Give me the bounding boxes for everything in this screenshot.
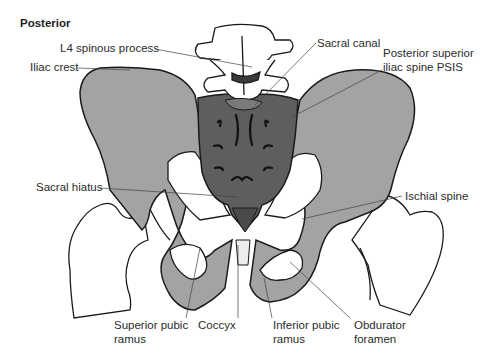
label-psis: Posterior superior iliac spine PSIS xyxy=(383,47,474,74)
label-l4-spinous-process: L4 spinous process xyxy=(60,42,159,56)
label-sacral-hiatus: Sacral hiatus xyxy=(36,181,102,195)
label-inferior-pubic-ramus: Inferior pubic ramus xyxy=(273,319,339,346)
label-obturator-foramen: Obdurator foramen xyxy=(354,319,406,346)
label-iliac-crest: Iliac crest xyxy=(30,61,79,75)
lumbar-vertebrae xyxy=(195,24,293,100)
label-sacral-canal: Sacral canal xyxy=(317,37,380,51)
view-title: Posterior xyxy=(20,17,71,29)
left-femur xyxy=(69,203,170,318)
label-coccyx: Coccyx xyxy=(198,319,236,333)
label-ischial-spine: Ischial spine xyxy=(405,190,468,204)
label-superior-pubic-ramus: Superior pubic ramus xyxy=(114,319,188,346)
